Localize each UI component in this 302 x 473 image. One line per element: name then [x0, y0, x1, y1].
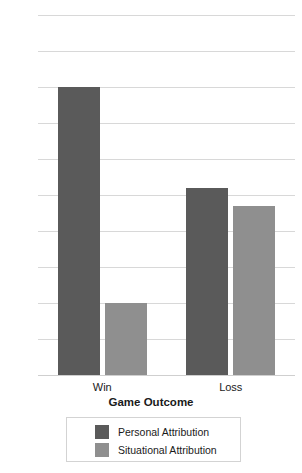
gridline — [38, 375, 295, 376]
legend-item[interactable]: Situational Attribution — [95, 442, 240, 458]
gridline — [38, 15, 295, 16]
bar-win-personal — [58, 87, 100, 375]
x-axis-tick-label: Loss — [219, 381, 242, 393]
bar-loss-situational — [233, 206, 275, 375]
x-axis-title: Game Outcome — [0, 396, 302, 408]
legend-item[interactable]: Personal Attribution — [95, 424, 240, 440]
x-axis-tick-label: Win — [93, 381, 112, 393]
legend-item-label: Personal Attribution — [118, 426, 209, 438]
legend-item-label: Situational Attribution — [118, 444, 217, 456]
chart-legend: Personal Attribution Situational Attribu… — [66, 417, 241, 462]
bar-loss-personal — [186, 188, 228, 375]
bar-win-situational — [105, 303, 147, 375]
chart-title — [0, 0, 302, 5]
plot-area — [38, 15, 295, 375]
legend-swatch-icon — [95, 443, 109, 457]
legend-swatch-icon — [95, 425, 109, 439]
gridline — [38, 51, 295, 52]
